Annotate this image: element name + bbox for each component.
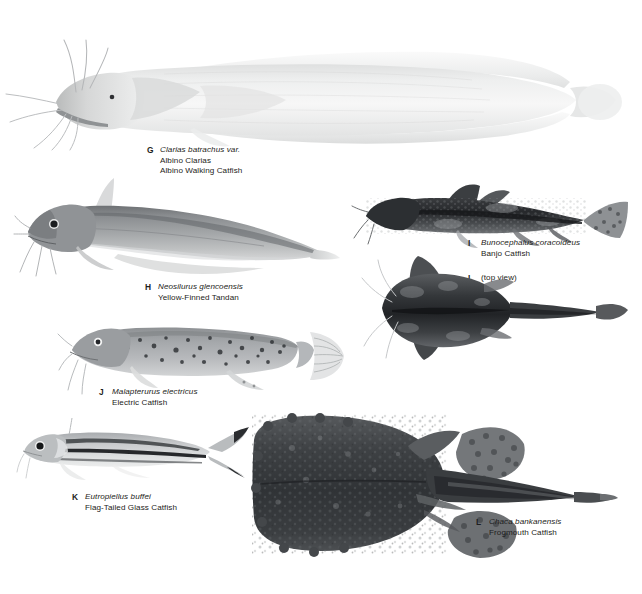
specimen-i-banjo-catfish-top [352, 256, 632, 366]
catfish-plate: G Clarias batrachus var. Albino Clarias … [0, 0, 642, 594]
specimen-j-electric-catfish [58, 318, 348, 396]
caption-k-letter: K [72, 492, 78, 503]
fish-eye [110, 95, 115, 100]
specimen-l-frogmouth-catfish [248, 410, 618, 570]
specimen-k-flag-tailed-glass-catfish [16, 418, 256, 486]
caption-h-scientific: Neosilurus glencoensis [158, 282, 243, 291]
caption-j-scientific: Malapterurus electricus [112, 387, 198, 396]
fish-eye [36, 442, 43, 449]
caption-i-letter: I [468, 238, 470, 249]
caption-l: L Chaca bankanensis Frogmouth Catfish [489, 517, 561, 538]
caption-g: G Clarias batrachus var. Albino Clarias … [160, 145, 242, 177]
caption-j-common-1: Electric Catfish [112, 398, 198, 409]
specimen-h-yellow-finned-tandan [14, 176, 344, 286]
caption-h: H Neosilurus glencoensis Yellow-Finned T… [158, 282, 243, 303]
caption-k-scientific: Eutropiellus buffei [85, 492, 151, 501]
caption-l-scientific: Chaca bankanensis [489, 517, 561, 526]
caption-g-common-1: Albino Clarias [160, 156, 242, 167]
caption-h-letter: H [145, 282, 151, 293]
caption-g-letter: G [147, 145, 154, 156]
caption-j-letter: J [99, 387, 104, 398]
caption-h-common-1: Yellow-Finned Tandan [158, 293, 243, 304]
caption-l-letter: L [476, 517, 481, 528]
specimen-g-albino-walking-catfish [4, 26, 628, 152]
fish-eye [50, 220, 57, 227]
caption-j: J Malapterurus electricus Electric Catfi… [112, 387, 198, 408]
caption-k-common-1: Flag-Tailed Glass Catfish [85, 503, 177, 514]
caption-g-scientific: Clarias batrachus var. [160, 145, 240, 154]
caption-i-scientific: Bunocephalus coracoideus [481, 238, 580, 247]
caption-k: K Eutropiellus buffei Flag-Tailed Glass … [85, 492, 177, 513]
caption-l-common-1: Frogmouth Catfish [489, 528, 561, 539]
fish-eye [96, 340, 101, 345]
